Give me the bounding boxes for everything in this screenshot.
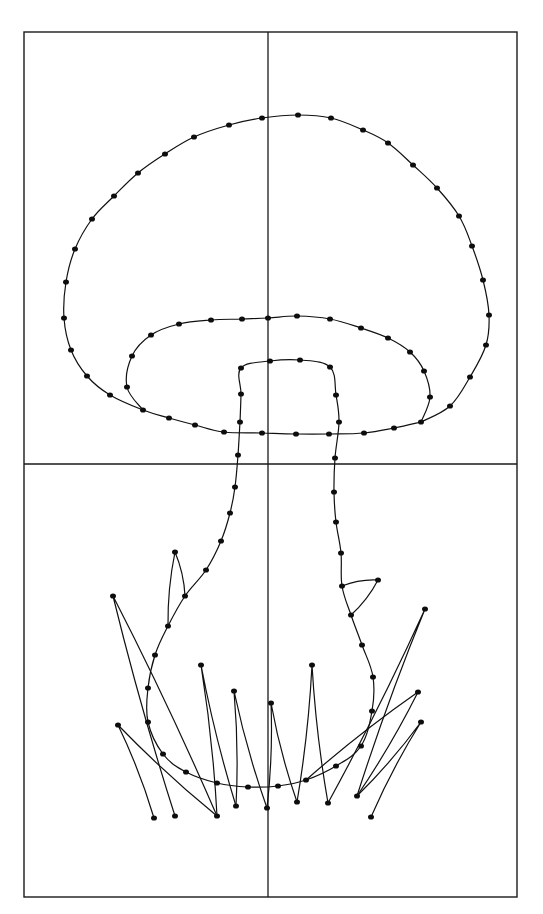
connect-dot [227, 510, 233, 515]
connect-dot [333, 392, 339, 397]
connect-dot [63, 279, 69, 284]
connect-dot [221, 429, 227, 434]
connect-dot [238, 391, 244, 396]
connect-dot [361, 430, 367, 435]
connect-dot [214, 780, 220, 785]
connect-dot [328, 115, 334, 120]
connect-dot [238, 365, 244, 370]
connect-dot [447, 403, 453, 408]
connect-dot [107, 392, 113, 397]
connect-dot [191, 134, 197, 139]
connect-dot [148, 332, 154, 337]
connect-dot [68, 347, 74, 352]
connect-dot [294, 799, 300, 804]
connect-dot [233, 803, 239, 808]
connect-dot [259, 115, 265, 120]
connect-dot [358, 743, 364, 748]
connect-dot [151, 815, 157, 820]
connect-dot [467, 374, 473, 379]
drawing-paths [64, 115, 490, 818]
connect-dot [111, 193, 117, 198]
connect-dot [267, 358, 273, 363]
connect-dot [182, 593, 188, 598]
connect-dot [360, 127, 366, 132]
connect-dot [237, 419, 243, 424]
connect-dot [295, 112, 301, 117]
connect-dot [145, 685, 151, 690]
connect-dot [294, 313, 300, 318]
connect-dot [245, 784, 251, 789]
connect-dot [84, 373, 90, 378]
grass-blade-3-line [118, 725, 217, 818]
connect-dot [418, 719, 424, 724]
connect-dot [232, 484, 238, 489]
connect-dot [268, 700, 274, 705]
connect-dot [348, 612, 354, 617]
connect-dot [214, 813, 220, 818]
connect-dot [208, 317, 214, 322]
connect-dot [198, 662, 204, 667]
connect-dot [483, 342, 489, 347]
connect-dot [333, 763, 339, 768]
connect-dot [275, 783, 281, 788]
connect-dot [124, 384, 130, 389]
connect-dot [110, 593, 116, 598]
connect-dot [422, 606, 428, 611]
connect-dot [326, 431, 332, 436]
connect-dot [434, 185, 440, 190]
connect-dot [162, 151, 168, 156]
connect-dot [166, 415, 172, 420]
connect-dot [339, 583, 345, 588]
connect-dot [332, 455, 338, 460]
connect-dot [145, 719, 151, 724]
connect-dot [421, 368, 427, 373]
connect-dot [115, 722, 121, 727]
connect-dot [354, 793, 360, 798]
connect-dot [226, 122, 232, 127]
connect-dot [235, 452, 241, 457]
connect-dot [165, 623, 171, 628]
grass-blade-8-line [342, 580, 378, 615]
connect-dot [486, 312, 492, 317]
connect-dot [160, 751, 166, 756]
connect-dot [368, 814, 374, 819]
connect-dot [192, 422, 198, 427]
connect-dot [176, 321, 182, 326]
connect-dot [231, 688, 237, 693]
connect-dot [358, 325, 364, 330]
connect-dot [218, 538, 224, 543]
connect-dot [259, 430, 265, 435]
drawing-dots [61, 112, 492, 820]
connect-dot [385, 335, 391, 340]
connect-dot [469, 243, 475, 248]
connect-dot [456, 213, 462, 218]
connect-dot [264, 805, 270, 810]
grass-blade-2-line [113, 596, 217, 816]
connect-dot [309, 662, 315, 667]
connect-dot [140, 407, 146, 412]
connect-dot [407, 349, 413, 354]
connect-dot [72, 246, 78, 251]
grass-blade-1-line [168, 552, 185, 626]
connect-dot [480, 277, 486, 282]
connect-dot [183, 769, 189, 774]
connect-dot [89, 216, 95, 221]
connect-dot [303, 777, 309, 782]
connect-dot [418, 419, 424, 424]
connect-dot [370, 674, 376, 679]
connect-dot [359, 642, 365, 647]
connect-dot [336, 419, 342, 424]
connect-dot [391, 425, 397, 430]
connect-dot [61, 315, 67, 320]
connect-dot [203, 567, 209, 572]
grass-blade-11-line [357, 722, 421, 817]
connect-dot [327, 364, 333, 369]
connect-dot [327, 316, 333, 321]
connect-dot [415, 689, 421, 694]
connect-dot [375, 577, 381, 582]
grass-blade-5-line [234, 691, 267, 808]
connect-dot [239, 316, 245, 321]
connect-dot [333, 519, 339, 524]
connect-dot [338, 550, 344, 555]
connect-dot [135, 170, 141, 175]
